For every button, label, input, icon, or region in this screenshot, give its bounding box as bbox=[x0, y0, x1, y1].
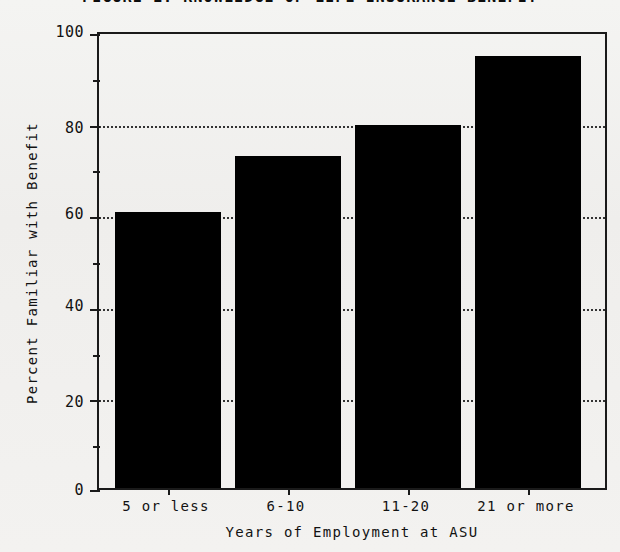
x-axis-title: Years of Employment at ASU bbox=[97, 524, 607, 540]
x-tick-label-3: 11-20 bbox=[336, 498, 476, 514]
y-tick-label-100: 100 bbox=[22, 23, 84, 41]
y-tick-major-60 bbox=[90, 217, 100, 219]
x-tick-4 bbox=[528, 488, 530, 495]
y-tick-minor-90 bbox=[93, 80, 100, 82]
bar-6-10 bbox=[235, 156, 341, 488]
figure-page: FIGURE 1. KNOWLEDGE OF LIFE INSURANCE BE… bbox=[0, 0, 620, 552]
y-tick-minor-30 bbox=[93, 355, 100, 357]
y-tick-major-0 bbox=[90, 490, 100, 492]
y-tick-major-40 bbox=[90, 309, 100, 311]
x-tick-2 bbox=[288, 488, 290, 495]
bar-21-or-more bbox=[475, 56, 581, 488]
y-tick-minor-70 bbox=[93, 171, 100, 173]
y-tick-minor-50 bbox=[93, 263, 100, 265]
x-tick-3 bbox=[408, 488, 410, 495]
x-tick-label-2: 6-10 bbox=[216, 498, 356, 514]
x-tick-1 bbox=[168, 488, 170, 495]
chart-title: FIGURE 1. KNOWLEDGE OF LIFE INSURANCE BE… bbox=[0, 0, 620, 6]
bar-11-20 bbox=[355, 125, 461, 488]
y-tick-major-80 bbox=[90, 126, 100, 128]
x-tick-label-4: 21 or more bbox=[456, 498, 596, 514]
y-tick-major-20 bbox=[90, 400, 100, 402]
x-tick-label-1: 5 or less bbox=[96, 498, 236, 514]
bar-5-or-less bbox=[115, 212, 221, 488]
y-tick-label-0: 0 bbox=[22, 481, 84, 499]
plot-area bbox=[97, 32, 607, 490]
y-tick-major-100 bbox=[90, 34, 100, 36]
y-axis-title: Percent Familiar with Benefit bbox=[24, 113, 40, 413]
y-tick-minor-10 bbox=[93, 446, 100, 448]
